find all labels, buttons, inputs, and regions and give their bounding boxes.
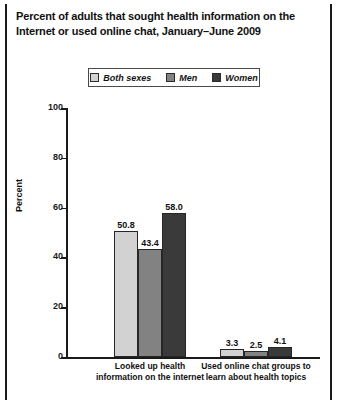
bar-value-label: 43.4 xyxy=(141,238,159,248)
x-axis-line xyxy=(66,357,320,359)
bar: 50.8 xyxy=(114,231,138,357)
y-tick-label: 40 xyxy=(53,251,63,261)
legend-swatch-icon xyxy=(166,73,175,82)
legend-item: Both sexes xyxy=(90,73,151,83)
bar-value-label: 3.3 xyxy=(226,338,239,348)
legend-label: Both sexes xyxy=(103,73,151,83)
bar: 3.3 xyxy=(220,349,244,357)
y-axis-line xyxy=(66,108,68,357)
bar: 2.5 xyxy=(244,351,268,357)
bar-value-label: 58.0 xyxy=(165,202,183,212)
y-tick-label: 60 xyxy=(53,202,63,212)
y-tick-label: 20 xyxy=(53,301,63,311)
bar-value-label: 50.8 xyxy=(117,220,135,230)
legend-label: Men xyxy=(179,73,197,83)
chart-legend: Both sexesMenWomen xyxy=(88,68,260,87)
plot-area: Percent 02040608010050.843.458.0Looked u… xyxy=(66,108,320,357)
bar: 43.4 xyxy=(138,249,162,357)
figure-left-rule xyxy=(5,4,7,400)
figure-right-rule xyxy=(330,4,332,400)
bar-value-label: 2.5 xyxy=(250,340,263,350)
legend-label: Women xyxy=(225,73,257,83)
legend-item: Men xyxy=(166,73,197,83)
chart-figure: Percent of adults that sought health inf… xyxy=(0,0,342,404)
chart-title-line-1: Percent of adults that sought health inf… xyxy=(16,10,295,22)
bar-value-label: 4.1 xyxy=(274,336,287,346)
legend-swatch-icon xyxy=(90,73,99,82)
chart-title: Percent of adults that sought health inf… xyxy=(16,9,316,38)
y-tick-label: 100 xyxy=(48,102,63,112)
legend-item: Women xyxy=(212,73,257,83)
y-axis-title: Percent xyxy=(14,179,24,212)
legend-swatch-icon xyxy=(212,73,221,82)
bar: 4.1 xyxy=(268,347,292,357)
y-tick-label: 80 xyxy=(53,152,63,162)
bar: 58.0 xyxy=(162,213,186,357)
x-category-label: Used online chat groups to learn about h… xyxy=(186,361,326,383)
y-tick-label: 0 xyxy=(58,351,63,361)
chart-title-line-2: Internet or used online chat, January–Ju… xyxy=(16,24,316,39)
